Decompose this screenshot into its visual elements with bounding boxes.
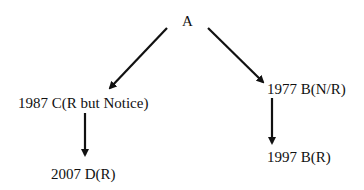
arrow-a-to-b1977	[208, 28, 263, 82]
node-1997-b: 1997 B(R)	[267, 149, 331, 165]
node-1977-b: 1977 B(N/R)	[267, 81, 346, 97]
node-a: A	[182, 13, 193, 29]
node-2007-d: 2007 D(R)	[51, 166, 116, 182]
arrow-a-to-c1987	[110, 28, 167, 88]
node-1987-c: 1987 C(R but Notice)	[18, 95, 148, 111]
